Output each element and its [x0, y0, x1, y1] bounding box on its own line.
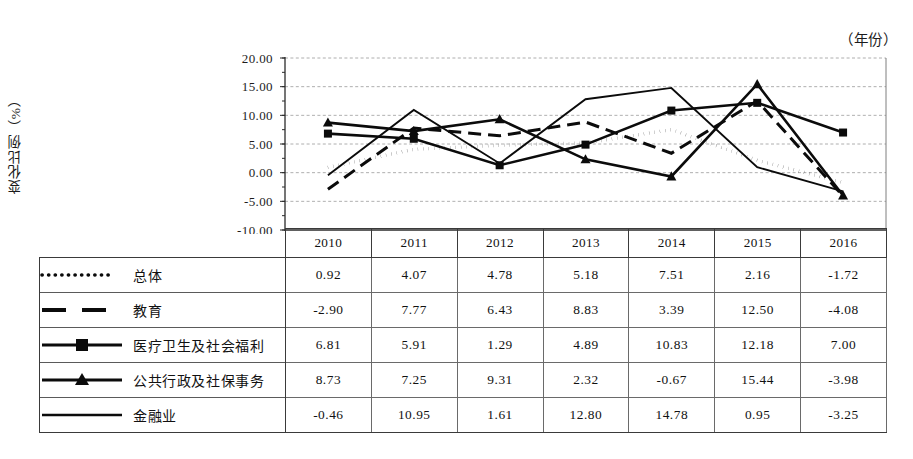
legend-label: 教育 [133, 300, 162, 320]
cell-r4-c6: 15.44 [715, 363, 801, 398]
series-marker-square [753, 99, 761, 107]
legend-swatch [40, 407, 124, 423]
cell-r1-c7: -1.72 [801, 258, 887, 293]
legend-header-blank [40, 229, 286, 258]
column-header-year-2010: 2010 [285, 229, 371, 258]
cell-r3-c6: 12.18 [715, 328, 801, 363]
cell-r5-c5: 14.78 [629, 398, 715, 433]
cell-r4-c2: 7.25 [371, 363, 457, 398]
table-row: 医疗卫生及社会福利6.815.911.294.8910.8312.187.00 [40, 328, 887, 363]
series-5 [328, 88, 843, 191]
y-tick-label: 10.00 [242, 108, 273, 123]
legend-line-swatch [40, 267, 124, 283]
cell-r2-c4: 8.83 [543, 293, 629, 328]
cell-r1-c3: 4.78 [457, 258, 543, 293]
legend-line-swatch [40, 407, 124, 423]
legend-swatch [40, 337, 124, 353]
y-tick-label: -5.00 [244, 194, 273, 209]
cell-r5-c2: 10.95 [371, 398, 457, 433]
legend-cell-1: 总体 [40, 258, 286, 293]
table-body: 总体0.924.074.785.187.512.16-1.72教育-2.907.… [40, 258, 887, 433]
cell-r4-c4: 2.32 [543, 363, 629, 398]
cell-r2-c3: 6.43 [457, 293, 543, 328]
cell-r2-c5: 3.39 [629, 293, 715, 328]
table-row: 金融业-0.4610.951.6112.8014.780.95-3.25 [40, 398, 887, 433]
cell-r5-c6: 0.95 [715, 398, 801, 433]
cell-r2-c2: 7.77 [371, 293, 457, 328]
legend-label: 总体 [133, 265, 162, 285]
table-row: 公共行政及社保事务8.737.259.312.32-0.6715.44-3.98 [40, 363, 887, 398]
cell-r1-c2: 4.07 [371, 258, 457, 293]
legend-swatch [40, 302, 124, 318]
legend-label: 金融业 [133, 405, 177, 425]
y-axis-ticks: 20.0015.0010.005.000.00-5.00-10.00 [237, 51, 285, 235]
column-header-year-2014: 2014 [629, 229, 715, 258]
cell-r4-c7: -3.98 [801, 363, 887, 398]
legend-label: 医疗卫生及社会福利 [133, 335, 264, 355]
cell-r3-c4: 4.89 [543, 328, 629, 363]
series-marker-square [667, 107, 675, 115]
cell-r3-c3: 1.29 [457, 328, 543, 363]
chart-page: （年份） 变化比例（%） 20.0015.0010.005.000.00-5.0… [0, 0, 913, 459]
series-marker-square [410, 135, 418, 143]
series-line [328, 88, 843, 191]
cell-r3-c5: 10.83 [629, 328, 715, 363]
line-chart: 20.0015.0010.005.000.00-5.00-10.00 [0, 44, 913, 234]
table-header: 2010201120122013201420152016 [40, 229, 887, 258]
y-tick-label: 5.00 [249, 137, 273, 152]
table-header-row: 2010201120122013201420152016 [40, 229, 887, 258]
series-line [328, 84, 843, 195]
legend-swatch [40, 267, 124, 283]
data-table: 2010201120122013201420152016 总体0.924.074… [39, 228, 887, 433]
table-row: 总体0.924.074.785.187.512.16-1.72 [40, 258, 887, 293]
cell-r2-c6: 12.50 [715, 293, 801, 328]
legend-cell-3: 医疗卫生及社会福利 [40, 328, 286, 363]
cell-r3-c1: 6.81 [285, 328, 371, 363]
column-header-year-2012: 2012 [457, 229, 543, 258]
legend-cell-5: 金融业 [40, 398, 286, 433]
column-header-year-2011: 2011 [371, 229, 457, 258]
cell-r2-c7: -4.08 [801, 293, 887, 328]
series-marker-square [582, 141, 590, 149]
cell-r1-c4: 5.18 [543, 258, 629, 293]
series-marker-triangle [752, 79, 762, 88]
column-header-year-2016: 2016 [801, 229, 887, 258]
legend-label: 公共行政及社保事务 [133, 370, 264, 390]
cell-r5-c7: -3.25 [801, 398, 887, 433]
cell-r1-c1: 0.92 [285, 258, 371, 293]
cell-r2-c1: -2.90 [285, 293, 371, 328]
cell-r3-c2: 5.91 [371, 328, 457, 363]
y-tick-label: 0.00 [249, 165, 273, 180]
cell-r4-c3: 9.31 [457, 363, 543, 398]
column-header-year-2015: 2015 [715, 229, 801, 258]
cell-r1-c5: 7.51 [629, 258, 715, 293]
cell-r1-c6: 2.16 [715, 258, 801, 293]
cell-r5-c4: 12.80 [543, 398, 629, 433]
legend-cell-2: 教育 [40, 293, 286, 328]
y-tick-label: 15.00 [242, 79, 273, 94]
series-marker-square [839, 129, 847, 137]
cell-r4-c5: -0.67 [629, 363, 715, 398]
cell-r5-c3: 1.61 [457, 398, 543, 433]
column-header-year-2013: 2013 [543, 229, 629, 258]
table-row: 教育-2.907.776.438.833.3912.50-4.08 [40, 293, 887, 328]
cell-r3-c7: 7.00 [801, 328, 887, 363]
legend-swatch [40, 372, 124, 388]
legend-cell-4: 公共行政及社保事务 [40, 363, 286, 398]
series-marker-square [324, 130, 332, 138]
y-tick-label: 20.00 [242, 51, 273, 66]
legend-line-swatch [40, 337, 124, 353]
series-lines [323, 79, 848, 200]
legend-line-swatch [40, 302, 124, 318]
cell-r4-c1: 8.73 [285, 363, 371, 398]
cell-r5-c1: -0.46 [285, 398, 371, 433]
legend-line-swatch [40, 372, 124, 388]
